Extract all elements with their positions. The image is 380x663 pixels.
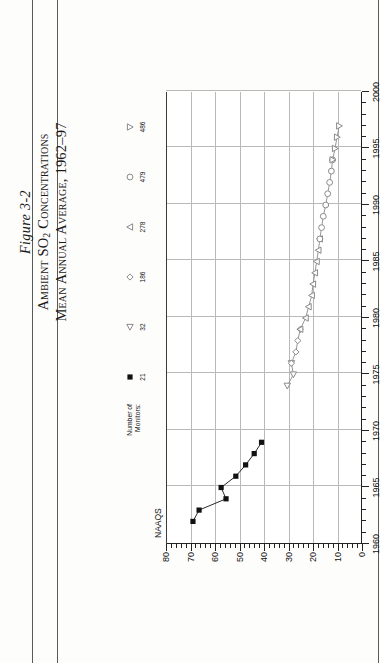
- data-point-open-circle: [327, 180, 333, 186]
- y-axis-tick-minor: [298, 544, 299, 548]
- y-axis-tick-minor: [259, 544, 260, 548]
- x-axis-tick-minor: [362, 509, 366, 510]
- x-axis-tick-minor: [362, 193, 366, 194]
- x-axis-tick-minor: [362, 475, 366, 476]
- legend-monitor-count: 486: [139, 104, 146, 150]
- y-axis-tick-label: 40: [259, 552, 269, 578]
- x-axis-tick-minor: [362, 306, 366, 307]
- x-axis-tick-major: [362, 543, 369, 544]
- x-axis-tick-minor: [362, 170, 366, 171]
- y-axis-label: Micrograms per Cubic Meter: [362, 581, 380, 592]
- y-axis-tick-minor: [225, 544, 226, 548]
- y-axis-tick-minor: [347, 544, 348, 548]
- data-point-open-diamond: [293, 349, 299, 355]
- y-axis-tick-label: 70: [186, 552, 196, 578]
- x-axis-tick-minor: [362, 215, 366, 216]
- figure-title-line-1: Ambient SO2 Concentrations: [35, 72, 52, 372]
- y-axis-tick-minor: [284, 544, 285, 548]
- data-point-open-diamond: [295, 338, 301, 344]
- x-axis-tick-major: [362, 204, 369, 205]
- x-axis-tick-minor: [362, 532, 366, 533]
- legend-monitor-count: 21: [139, 354, 146, 400]
- x-axis-tick-major: [362, 374, 369, 375]
- x-axis-tick-major: [362, 91, 369, 92]
- y-axis-tick-minor: [333, 544, 334, 548]
- y-axis-tick-major: [166, 544, 167, 551]
- data-point-open-triangle-up: [127, 224, 133, 230]
- title-text-pre: Ambient SO: [35, 238, 51, 311]
- x-axis-tick-minor: [362, 283, 366, 284]
- series-line-21: [193, 442, 262, 521]
- x-axis-tick-minor: [362, 351, 366, 352]
- x-axis-tick-minor: [362, 328, 366, 329]
- y-axis-tick-label: 10: [333, 552, 343, 578]
- data-point-open-circle: [319, 225, 325, 231]
- data-point-open-triangle-down: [127, 124, 133, 130]
- legend-item-479[interactable]: 479: [122, 154, 146, 200]
- y-axis-tick-minor: [200, 544, 201, 548]
- y-axis-tick-major: [313, 544, 314, 551]
- y-axis-tick-minor: [181, 544, 182, 548]
- data-point-open-triangle-left: [290, 372, 296, 378]
- y-axis-tick-minor: [303, 544, 304, 548]
- legend-item-278[interactable]: 278: [122, 204, 146, 250]
- figure-title-block: Figure 3-2 Ambient SO2 Concentrations Me…: [18, 72, 90, 372]
- data-point-filled-square: [219, 485, 224, 490]
- legend-marker-open-triangle-down-icon: [122, 104, 138, 150]
- data-point-open-circle: [127, 174, 133, 180]
- legend-item-186[interactable]: 186: [122, 254, 146, 300]
- so2-subscript: 2: [41, 233, 52, 238]
- y-axis-tick-minor: [328, 544, 329, 548]
- x-axis-tick-minor: [362, 453, 366, 454]
- series-layer: [166, 92, 362, 544]
- x-axis-tick-minor: [362, 396, 366, 397]
- y-axis-tick-label: 60: [210, 552, 220, 578]
- legend-item-21[interactable]: 21: [122, 354, 146, 400]
- x-axis-tick-minor: [362, 125, 366, 126]
- legend-marker-open-circle-icon: [122, 154, 138, 200]
- y-axis-tick-minor: [244, 544, 245, 548]
- y-axis-tick-major: [362, 544, 363, 551]
- legend-item-486[interactable]: 486: [122, 104, 146, 150]
- x-axis-tick-minor: [362, 498, 366, 499]
- data-point-filled-square: [243, 462, 248, 467]
- data-point-open-triangle-left: [284, 383, 290, 389]
- naaqs-label: NAAQS: [153, 508, 163, 538]
- x-axis-tick-minor: [362, 419, 366, 420]
- y-axis-tick-major: [191, 544, 192, 551]
- y-axis-tick-minor: [293, 544, 294, 548]
- x-axis-tick-major: [362, 430, 369, 431]
- legend-title: Number ofMonitors:: [126, 404, 142, 452]
- naaqs-reference-line: [166, 92, 167, 544]
- legend-title-line: Monitors:: [134, 404, 142, 452]
- data-point-open-diamond: [127, 274, 133, 280]
- x-axis-tick-minor: [362, 159, 366, 160]
- data-point-open-triangle-down: [337, 123, 343, 129]
- series-line-186: [291, 329, 300, 363]
- y-axis-tick-label: 30: [284, 552, 294, 578]
- y-axis-tick-major: [338, 544, 339, 551]
- x-axis-tick-label: 1965: [371, 477, 380, 497]
- y-axis-tick-minor: [230, 544, 231, 548]
- x-axis-tick-minor: [362, 407, 366, 408]
- x-axis-tick-major: [362, 487, 369, 488]
- x-axis-tick-major: [362, 148, 369, 149]
- y-axis-tick-minor: [210, 544, 211, 548]
- y-axis-tick-major: [240, 544, 241, 551]
- y-axis-tick-minor: [274, 544, 275, 548]
- data-point-open-circle: [323, 202, 329, 208]
- y-axis-tick-label: 0: [357, 552, 367, 578]
- x-axis-tick-minor: [362, 102, 366, 103]
- x-axis-tick-minor: [362, 385, 366, 386]
- legend-item-32[interactable]: 32: [122, 304, 146, 350]
- x-axis-tick-minor: [362, 227, 366, 228]
- legend-marker-filled-square-icon: [122, 354, 138, 400]
- chart-rotated-wrapper: NAAQS 1960196519701975198019851990199520…: [120, 46, 380, 606]
- data-point-open-circle: [328, 168, 334, 174]
- x-axis-tick-label: 1970: [371, 421, 380, 441]
- x-axis-tick-major: [362, 317, 369, 318]
- x-axis-tick-minor: [362, 238, 366, 239]
- legend-monitor-count: 479: [139, 154, 146, 200]
- x-axis-tick-minor: [362, 340, 366, 341]
- data-point-open-triangle-up: [302, 315, 308, 321]
